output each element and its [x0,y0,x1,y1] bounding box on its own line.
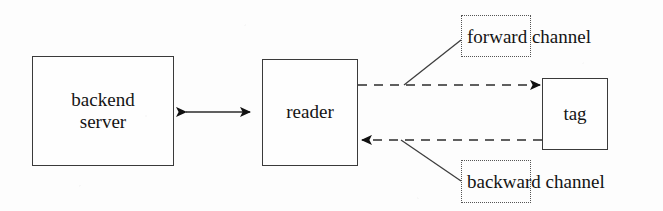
node-reader-label: reader [286,101,333,123]
node-tag: tag [542,78,608,150]
leader-backward-channel [401,140,461,181]
leader-forward-channel [404,40,461,85]
callout-backward-channel-label: backward channel [467,172,605,191]
node-backend-server-label: backend server [71,89,134,134]
callout-forward-channel-label: forward channel [467,27,591,46]
node-backend-server: backend server [32,56,174,166]
node-reader: reader [262,59,358,166]
diagram-canvas: reader : solid double headed --> tag : d… [0,0,663,211]
node-tag-label: tag [563,103,586,125]
